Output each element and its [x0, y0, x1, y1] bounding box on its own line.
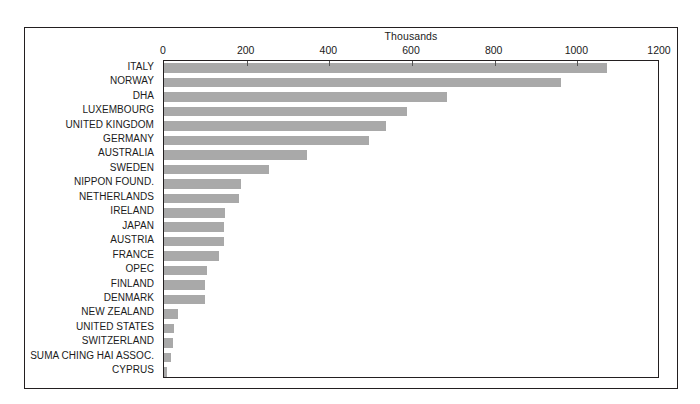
y-tick-label: GERMANY: [103, 133, 154, 144]
x-tick-label: 1200: [647, 44, 670, 56]
y-tick-label: NEW ZEALAND: [81, 306, 154, 317]
bar: [164, 107, 407, 117]
bar: [164, 150, 307, 160]
y-tick-label: SUMA CHING HAI ASSOC.: [30, 350, 154, 361]
y-tick-label: LUXEMBOURG: [82, 104, 154, 115]
y-tick-label: CYPRUS: [112, 364, 154, 375]
y-tick-label: NETHERLANDS: [79, 191, 154, 202]
x-axis-tick-labels: 020040060080010001200: [0, 44, 700, 57]
bar: [164, 237, 224, 247]
x-tick-label: 600: [402, 44, 420, 56]
bar: [164, 222, 224, 232]
bar: [164, 309, 178, 319]
y-tick-label: UNITED STATES: [76, 321, 154, 332]
x-tick-mark: [577, 61, 578, 66]
x-tick-label: 800: [485, 44, 503, 56]
x-tick-mark: [329, 61, 330, 66]
y-tick-label: SWEDEN: [110, 162, 154, 173]
bar: [164, 353, 171, 363]
bar: [164, 121, 386, 131]
bar: [164, 136, 369, 146]
y-tick-label: JAPAN: [122, 220, 154, 231]
chart-figure: Thousands 020040060080010001200 ITALYNOR…: [0, 0, 700, 404]
x-tick-mark: [495, 61, 496, 66]
bar: [164, 78, 561, 88]
y-tick-label: AUSTRALIA: [98, 147, 154, 158]
bar: [164, 208, 225, 218]
bar: [164, 295, 205, 305]
bar: [164, 251, 219, 261]
bar: [164, 338, 173, 348]
bar: [164, 179, 241, 189]
y-tick-label: UNITED KINGDOM: [66, 119, 154, 130]
bar: [164, 280, 205, 290]
x-tick-label: 0: [160, 44, 166, 56]
bar: [164, 63, 607, 73]
y-tick-label: NORWAY: [110, 75, 154, 86]
bar: [164, 92, 447, 102]
bar: [164, 367, 167, 377]
x-tick-label: 200: [237, 44, 255, 56]
y-tick-label: IRELAND: [110, 205, 154, 216]
bar: [164, 165, 269, 175]
y-tick-label: DENMARK: [104, 292, 154, 303]
y-axis-category-labels: ITALYNORWAYDHALUXEMBOURGUNITED KINGDOMGE…: [20, 60, 159, 378]
x-tick-label: 1000: [565, 44, 588, 56]
y-tick-label: AUSTRIA: [110, 234, 154, 245]
bar: [164, 324, 174, 334]
bar: [164, 266, 207, 276]
y-tick-label: DHA: [133, 90, 154, 101]
bar: [164, 194, 239, 204]
plot-area: [163, 60, 659, 378]
x-tick-label: 400: [320, 44, 338, 56]
y-tick-label: FINLAND: [111, 278, 154, 289]
y-tick-label: ITALY: [127, 61, 154, 72]
y-tick-label: NIPPON FOUND.: [74, 176, 154, 187]
x-tick-mark: [247, 61, 248, 66]
bars-layer: [164, 61, 658, 377]
chart-title: Thousands: [163, 30, 659, 42]
y-tick-label: SWITZERLAND: [82, 335, 154, 346]
y-tick-label: OPEC: [125, 263, 154, 274]
x-tick-mark: [412, 61, 413, 66]
y-tick-label: FRANCE: [113, 249, 154, 260]
